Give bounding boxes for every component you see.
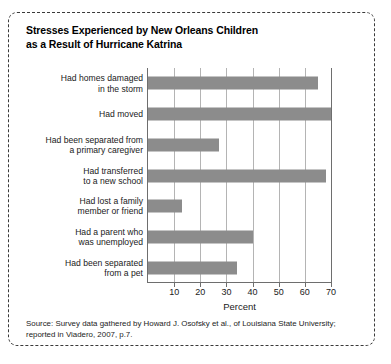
y-axis-label-line: was unemployed bbox=[9, 237, 143, 247]
y-axis-label: Had a parent whowas unemployed bbox=[9, 227, 143, 247]
source-note: Source: Survey data gathered by Howard J… bbox=[26, 318, 360, 340]
y-axis-label-line: Had transferred bbox=[9, 165, 143, 175]
bar bbox=[148, 108, 331, 121]
y-axis-label-line: Had homes damaged bbox=[9, 73, 143, 83]
chart-plot: Had homes damagedin the stormHad movedHa… bbox=[9, 68, 376, 300]
y-axis-label: Had been separatedfrom a pet bbox=[9, 257, 143, 277]
bar bbox=[148, 77, 318, 90]
y-axis-label-line: Had moved bbox=[9, 109, 143, 119]
y-axis-label: Had moved bbox=[9, 109, 143, 119]
bar bbox=[148, 169, 326, 182]
chart-title-line-1: Stresses Experienced by New Orleans Chil… bbox=[26, 24, 356, 38]
x-axis-tick-label: 20 bbox=[195, 287, 205, 297]
y-axis-label: Had transferredto a new school bbox=[9, 165, 143, 185]
x-axis-tick-label: 70 bbox=[326, 287, 336, 297]
x-axis-tick-label: 60 bbox=[300, 287, 310, 297]
chart-title: Stresses Experienced by New Orleans Chil… bbox=[26, 24, 356, 51]
y-axis-label-line: a primary caregiver bbox=[9, 145, 143, 155]
y-axis-label-line: Had been separated from bbox=[9, 135, 143, 145]
bar bbox=[148, 261, 237, 274]
y-axis-label: Had lost a familymember or friend bbox=[9, 196, 143, 216]
bar bbox=[148, 230, 253, 243]
x-axis-tick-label: 30 bbox=[221, 287, 231, 297]
x-axis-tick-label: 50 bbox=[274, 287, 284, 297]
y-axis-label: Had homes damagedin the storm bbox=[9, 73, 143, 93]
y-axis-label-line: member or friend bbox=[9, 206, 143, 216]
y-axis-label-line: to a new school bbox=[9, 176, 143, 186]
bar bbox=[148, 200, 182, 213]
plot-area bbox=[147, 68, 332, 283]
x-axis-tick-label: 40 bbox=[248, 287, 258, 297]
bar bbox=[148, 138, 219, 151]
y-axis-label: Had been separated froma primary caregiv… bbox=[9, 135, 143, 155]
figure-card: Stresses Experienced by New Orleans Chil… bbox=[8, 12, 375, 346]
source-note-line-2: reported in Viadero, 2007, p.7. bbox=[26, 329, 360, 340]
y-axis-label-line: Had lost a family bbox=[9, 196, 143, 206]
y-axis-label-line: in the storm bbox=[9, 83, 143, 93]
x-axis-tick-label: 10 bbox=[169, 287, 179, 297]
y-axis-label-line: from a pet bbox=[9, 268, 143, 278]
chart-title-line-2: as a Result of Hurricane Katrina bbox=[26, 38, 356, 52]
y-axis-label-line: Had been separated bbox=[9, 257, 143, 267]
source-note-line-1: Source: Survey data gathered by Howard J… bbox=[26, 318, 360, 329]
y-axis-category-labels: Had homes damagedin the stormHad movedHa… bbox=[9, 68, 147, 283]
x-axis-title: Percent bbox=[147, 301, 332, 312]
y-axis-label-line: Had a parent who bbox=[9, 227, 143, 237]
